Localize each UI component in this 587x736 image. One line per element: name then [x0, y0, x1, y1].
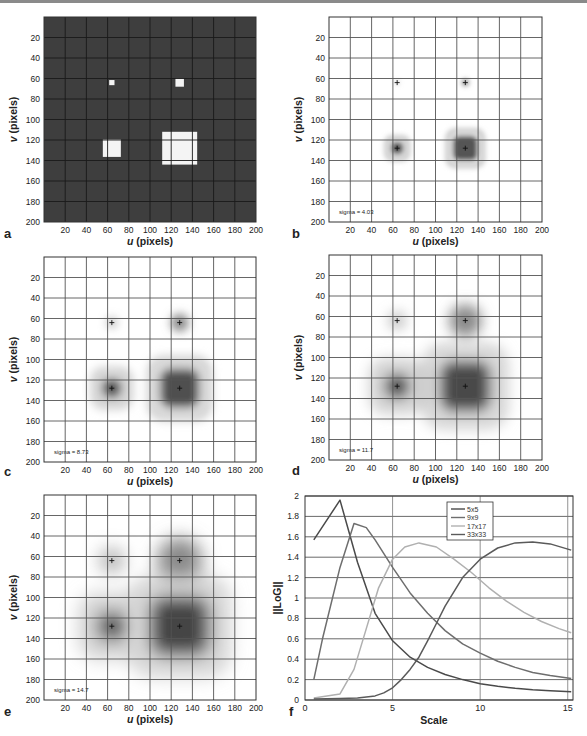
x-tick-label: 100: [143, 703, 157, 713]
y-tick-label: 80: [31, 94, 41, 104]
panel-label-e: e: [4, 704, 11, 719]
x-axis-label: u (pixels): [412, 235, 458, 247]
y-tick-label: 120: [311, 135, 325, 145]
y-tick-label: 80: [31, 572, 41, 582]
y-tick-label: 60: [31, 314, 41, 324]
panel-a: 2040608010012014016018020020406080100120…: [7, 17, 263, 247]
y-tick-label: 40: [31, 53, 41, 63]
x-tick-label: 100: [428, 225, 442, 235]
panel-label-d: d: [292, 463, 300, 478]
y-tick-label: 180: [26, 437, 40, 447]
y-tick-label: 180: [26, 197, 40, 207]
x-axis-label: u (pixels): [127, 235, 173, 247]
x-tick-label: 20: [346, 463, 356, 473]
x-tick-label: 40: [82, 225, 92, 235]
panel-c: 2040608010012014016018020020406080100120…: [7, 257, 263, 487]
y-tick-label: 0.6: [287, 634, 299, 644]
panel-label-b: b: [292, 226, 300, 241]
x-tick-label: 15: [563, 703, 573, 713]
x-tick-label: 200: [535, 225, 549, 235]
y-tick-label: 160: [26, 654, 40, 664]
y-tick-label: 0: [294, 695, 299, 705]
y-tick-label: 200: [26, 695, 40, 705]
y-tick-label: 200: [311, 217, 325, 227]
y-tick-label: 140: [311, 394, 325, 404]
y-tick-label: 140: [26, 156, 40, 166]
x-tick-label: 10: [475, 703, 485, 713]
y-tick-label: 180: [311, 197, 325, 207]
x-tick-label: 20: [60, 703, 70, 713]
panel-e: 2040608010012014016018020020406080100120…: [7, 495, 263, 725]
x-tick-label: 80: [409, 463, 419, 473]
x-tick-label: 120: [164, 465, 178, 475]
y-tick-label: 100: [26, 115, 40, 125]
y-axis-label: v (pixels): [7, 575, 19, 621]
square-2: [175, 79, 183, 87]
x-tick-label: 80: [124, 225, 134, 235]
x-tick-label: 180: [514, 225, 528, 235]
y-tick-label: 180: [311, 435, 325, 445]
panel-label-c: c: [4, 464, 11, 479]
y-tick-label: 200: [26, 457, 40, 467]
x-tick-label: 0: [302, 703, 307, 713]
y-tick-label: 100: [311, 353, 325, 363]
legend-label: 5x5: [467, 506, 478, 513]
y-axis-label: v (pixels): [7, 337, 19, 383]
x-tick-label: 60: [103, 703, 113, 713]
y-tick-label: 40: [31, 293, 41, 303]
x-axis-label: Scale: [420, 714, 448, 726]
x-tick-label: 120: [164, 703, 178, 713]
y-tick-label: 200: [26, 217, 40, 227]
panel-f: 00.20.40.60.811.21.41.61.820510155x59x91…: [271, 491, 573, 726]
x-tick-label: 120: [450, 225, 464, 235]
y-tick-label: 20: [316, 33, 326, 43]
square-3: [103, 139, 121, 156]
x-tick-label: 100: [428, 463, 442, 473]
y-tick-label: 2: [294, 491, 299, 501]
x-tick-label: 100: [143, 225, 157, 235]
y-tick-label: 1.2: [287, 573, 299, 583]
y-tick-label: 0.4: [287, 654, 299, 664]
legend-label: 33x33: [467, 531, 486, 538]
x-tick-label: 20: [346, 225, 356, 235]
x-tick-label: 100: [143, 465, 157, 475]
x-tick-label: 60: [388, 225, 398, 235]
y-tick-label: 160: [311, 176, 325, 186]
legend-label: 17x17: [467, 523, 486, 530]
y-tick-label: 40: [316, 291, 326, 301]
x-tick-label: 180: [514, 463, 528, 473]
y-tick-label: 1.4: [287, 552, 299, 562]
x-tick-label: 200: [249, 703, 263, 713]
x-tick-label: 180: [228, 225, 242, 235]
sigma-annotation: sigma = 4.03: [339, 209, 374, 215]
y-tick-label: 20: [31, 273, 41, 283]
y-tick-label: 80: [31, 334, 41, 344]
y-tick-label: 100: [26, 355, 40, 365]
x-tick-label: 80: [124, 703, 134, 713]
y-tick-label: 60: [316, 312, 326, 322]
x-tick-label: 40: [82, 703, 92, 713]
y-tick-label: 20: [316, 271, 326, 281]
y-axis-label: v (pixels): [292, 335, 304, 381]
square-4: [162, 132, 197, 165]
y-tick-label: 100: [311, 115, 325, 125]
x-tick-label: 20: [60, 465, 70, 475]
figure-canvas: 2040608010012014016018020020406080100120…: [0, 0, 587, 736]
y-tick-label: 140: [26, 634, 40, 644]
panel-b: 2040608010012014016018020020406080100120…: [292, 17, 549, 247]
y-tick-label: 80: [316, 332, 326, 342]
y-tick-label: 60: [31, 74, 41, 84]
x-tick-label: 180: [228, 465, 242, 475]
y-tick-label: 120: [26, 375, 40, 385]
y-axis-label: v (pixels): [292, 97, 304, 143]
x-tick-label: 160: [207, 465, 221, 475]
y-tick-label: 60: [316, 74, 326, 84]
x-tick-label: 160: [492, 225, 506, 235]
x-tick-label: 160: [207, 225, 221, 235]
y-tick-label: 60: [31, 552, 41, 562]
y-tick-label: 80: [316, 94, 326, 104]
y-tick-label: 0.2: [287, 675, 299, 685]
y-tick-label: 1.6: [287, 532, 299, 542]
x-tick-label: 160: [207, 703, 221, 713]
y-tick-label: 120: [311, 373, 325, 383]
